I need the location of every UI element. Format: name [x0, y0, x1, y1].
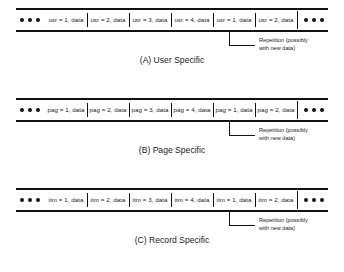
ellipsis-dot: [28, 18, 32, 22]
stream-cell: usr = 3, data: [129, 10, 171, 30]
annotation-line-1: Repetition (possibly: [259, 36, 343, 44]
stream-cell: pag = 4, data: [171, 100, 213, 120]
leader-stem: [229, 212, 230, 226]
ellipsis-dot: [20, 108, 24, 112]
stream-cell: pag = 1, data: [213, 100, 255, 120]
ellipsis-dots-left-icon: [16, 198, 45, 202]
ellipsis-dot: [36, 108, 40, 112]
ellipsis-dots-left-icon: [16, 18, 45, 22]
ellipsis-dot: [36, 18, 40, 22]
leader-stem: [229, 122, 230, 136]
stream-cell: usr = 1, data: [45, 10, 87, 30]
panel-caption: (A) User Specific: [0, 56, 344, 65]
stream-cell: usr = 4, data: [171, 10, 213, 30]
stream-band: itm = 1, data itm = 2, data itm = 3, dat…: [16, 188, 328, 212]
ellipsis-dot: [304, 198, 308, 202]
stream-band: usr = 1, data usr = 2, data usr = 3, dat…: [16, 8, 328, 32]
stream-band: pag = 1, data pag = 2, data pag = 3, dat…: [16, 98, 328, 122]
ellipsis-dot: [36, 198, 40, 202]
annotation-line-2: with new data): [259, 44, 343, 52]
leader-arm: [229, 135, 255, 136]
stream-cell: itm = 2, data: [255, 190, 297, 210]
repetition-leader-line-icon: [229, 122, 255, 136]
leader-arm: [229, 225, 255, 226]
leader-stem: [229, 32, 230, 46]
ellipsis-dot: [20, 18, 24, 22]
stream-cell: itm = 1, data: [45, 190, 87, 210]
stream-cells: usr = 1, data usr = 2, data usr = 3, dat…: [45, 10, 298, 30]
ellipsis-dot: [304, 108, 308, 112]
repetition-annotation: Repetition (possibly with new data): [259, 216, 343, 233]
ellipsis-dot: [312, 108, 316, 112]
stream-cell: pag = 2, data: [87, 100, 129, 120]
ellipsis-dot: [320, 18, 324, 22]
annotation-line-1: Repetition (possibly: [259, 126, 343, 134]
repetition-annotation: Repetition (possibly with new data): [259, 36, 343, 53]
annotation-line-2: with new data): [259, 224, 343, 232]
annotation-line-2: with new data): [259, 134, 343, 142]
ellipsis-dot: [20, 198, 24, 202]
stream-cell: pag = 3, data: [129, 100, 171, 120]
stream-cell: itm = 3, data: [129, 190, 171, 210]
stream-cell: usr = 1, data: [213, 10, 255, 30]
stream-cell: pag = 1, data: [45, 100, 87, 120]
leader-arm: [229, 45, 255, 46]
ellipsis-dot: [312, 198, 316, 202]
ellipsis-dots-right-icon: [298, 108, 328, 112]
repetition-annotation: Repetition (possibly with new data): [259, 126, 343, 143]
stream-cells: pag = 1, data pag = 2, data pag = 3, dat…: [45, 100, 298, 120]
ellipsis-dots-left-icon: [16, 108, 45, 112]
stream-cell: itm = 4, data: [171, 190, 213, 210]
ellipsis-dots-right-icon: [298, 18, 328, 22]
panel-caption: (B) Page Specific: [0, 146, 344, 155]
repetition-leader-line-icon: [229, 212, 255, 226]
stream-cells: itm = 1, data itm = 2, data itm = 3, dat…: [45, 190, 298, 210]
panel-caption: (C) Record Specific: [0, 236, 344, 245]
ellipsis-dot: [28, 198, 32, 202]
stream-cell: itm = 2, data: [87, 190, 129, 210]
ellipsis-dots-right-icon: [298, 198, 328, 202]
repetition-leader-line-icon: [229, 32, 255, 46]
ellipsis-dot: [320, 108, 324, 112]
annotation-line-1: Repetition (possibly: [259, 216, 343, 224]
ellipsis-dot: [28, 108, 32, 112]
ellipsis-dot: [320, 198, 324, 202]
ellipsis-dot: [312, 18, 316, 22]
stream-cell: itm = 1, data: [213, 190, 255, 210]
stream-cell: pag = 2, data: [255, 100, 297, 120]
stream-cell: usr = 2, data: [87, 10, 129, 30]
stream-cell: usr = 2, data: [255, 10, 297, 30]
ellipsis-dot: [304, 18, 308, 22]
